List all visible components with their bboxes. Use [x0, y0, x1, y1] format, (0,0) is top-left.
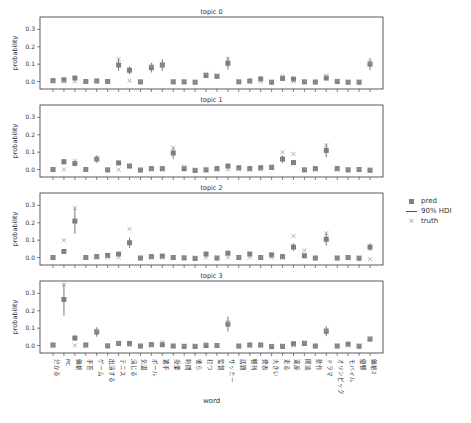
y-tick-label: 0.1 [25, 324, 35, 331]
y-tick-label: 0.3 [25, 25, 35, 32]
y-tick-label: 0.0 [25, 78, 35, 85]
x-tick-label: サッカー [229, 359, 235, 383]
x-tick-label: モバイル [349, 359, 355, 383]
legend-item-pred: pred [406, 196, 466, 206]
panel-title: topic 2 [200, 184, 222, 192]
panel-title: topic 3 [200, 272, 222, 280]
legend-label: 90% HDI [421, 206, 452, 216]
x-tick-label: 選手 [162, 359, 170, 371]
legend-label: pred [421, 196, 437, 206]
y-tick-label: 0.3 [25, 201, 35, 208]
panel-topic-2: topic 20.00.10.20.3probability [11, 184, 383, 268]
legend-item-truth: × truth [406, 216, 466, 226]
x-tick-label: 授業 [173, 359, 181, 371]
x-tick-label: 気温 [140, 359, 148, 371]
y-tick-label: 0.1 [25, 236, 35, 243]
x-tick-label: 優勝 [359, 359, 367, 371]
x-tick-label: PC [65, 359, 71, 366]
x-tick-label: 大きい [272, 359, 280, 377]
x-tick-label: 手首 [86, 359, 94, 371]
x-tick-label: 走る [283, 359, 291, 371]
y-tick-label: 0.0 [25, 166, 35, 173]
panel-topic-3: topic 30.00.10.20.3probability [11, 272, 383, 356]
y-tick-label: 0.3 [25, 113, 35, 120]
x-tick-label: 演じる [130, 359, 138, 377]
y-axis-label: probability [11, 300, 19, 335]
square-marker-icon [409, 199, 414, 204]
legend: pred 90% HDI × truth [406, 196, 466, 226]
y-axis-label: probability [11, 124, 19, 159]
y-axis-label: probability [11, 212, 19, 247]
x-tick-label: 打つ [207, 359, 214, 371]
y-tick-label: 0.2 [25, 43, 35, 50]
x-tick-label: オリンピック [338, 359, 344, 395]
x-marker-icon: × [406, 216, 417, 226]
x-tick-label: 分かる [53, 359, 61, 377]
panel-title: topic 1 [200, 96, 222, 104]
panel-title: topic 0 [200, 8, 222, 16]
y-tick-label: 0.2 [25, 219, 35, 226]
y-tick-label: 0.2 [25, 131, 35, 138]
x-tick-label: 監督 [217, 359, 225, 371]
x-tick-label: 関連 [304, 359, 312, 371]
y-tick-label: 0.1 [25, 60, 35, 67]
x-tick-label: 違反 [293, 359, 301, 371]
x-tick-label: 出演する [108, 359, 116, 383]
x-tick-label: 価格 [75, 359, 83, 371]
legend-item-hdi: 90% HDI [406, 206, 466, 216]
x-tick-label: 話題 [239, 359, 247, 371]
x-tick-label: ゲーム [97, 359, 105, 377]
x-tick-label: 発表 [261, 359, 269, 371]
x-tick-label: 価格2 [370, 359, 378, 375]
legend-label: truth [421, 216, 438, 226]
panel-topic-1: topic 10.00.10.20.3probability [11, 96, 383, 180]
x-tick-label: テニス [119, 359, 126, 377]
x-tick-label: 動作 [315, 359, 323, 371]
x-axis-label: word [203, 397, 220, 405]
x-tick-label: 彼ら [195, 359, 203, 371]
y-axis-label: probability [11, 36, 19, 71]
y-tick-label: 0.0 [25, 254, 35, 261]
chart-figure: topic 00.00.10.20.3probabilitytopic 10.0… [0, 0, 471, 423]
panel-topic-0: topic 00.00.10.20.3probability [11, 8, 383, 92]
y-tick-label: 0.1 [25, 148, 35, 155]
y-tick-label: 0.2 [25, 307, 35, 314]
line-marker-icon [406, 211, 417, 212]
x-tick-label: 勝利 [250, 359, 258, 371]
x-tick-label: 時間 [184, 359, 192, 371]
x-tick-label: ドラマ [327, 359, 333, 377]
x-tick-label: ボール [152, 359, 159, 377]
y-tick-label: 0.0 [25, 342, 35, 349]
y-tick-label: 0.3 [25, 289, 35, 296]
